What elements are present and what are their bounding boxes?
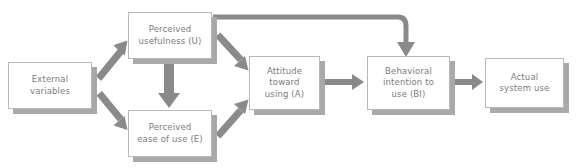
arrow-ease-to-attitude bbox=[215, 100, 249, 139]
arrow-attitude-to-intention bbox=[325, 74, 364, 90]
node-perceived-usefulness[interactable]: Perceived usefulness (U) bbox=[128, 12, 212, 59]
arrow-usefulness-to-ease bbox=[158, 62, 180, 108]
node-external-variables[interactable]: External variables bbox=[8, 62, 92, 109]
arrow-usefulness-to-intention-head bbox=[397, 42, 415, 57]
node-label-behavioral-intention: Behavioral intention to use (BI) bbox=[380, 66, 437, 101]
tam-diagram: External variables Perceived usefulness … bbox=[0, 0, 576, 168]
node-label-attitude-toward-using: Attitude toward using (A) bbox=[262, 66, 307, 101]
node-label-external-variables: External variables bbox=[27, 74, 73, 97]
arrow-external-to-usefulness bbox=[96, 41, 128, 82]
arrow-intention-to-actual bbox=[454, 74, 483, 90]
node-attitude-toward-using[interactable]: Attitude toward using (A) bbox=[249, 56, 320, 110]
node-actual-system-use[interactable]: Actual system use bbox=[485, 58, 564, 108]
node-perceived-ease-of-use[interactable]: Perceived ease of use (E) bbox=[128, 110, 212, 157]
arrow-usefulness-to-attitude bbox=[215, 33, 249, 71]
arrow-usefulness-to-intention bbox=[213, 17, 406, 44]
node-label-perceived-ease-of-use: Perceived ease of use (E) bbox=[134, 122, 206, 145]
node-behavioral-intention[interactable]: Behavioral intention to use (BI) bbox=[367, 56, 450, 110]
arrow-external-to-ease bbox=[97, 91, 128, 130]
node-label-perceived-usefulness: Perceived usefulness (U) bbox=[136, 24, 205, 47]
node-label-actual-system-use: Actual system use bbox=[497, 72, 553, 95]
